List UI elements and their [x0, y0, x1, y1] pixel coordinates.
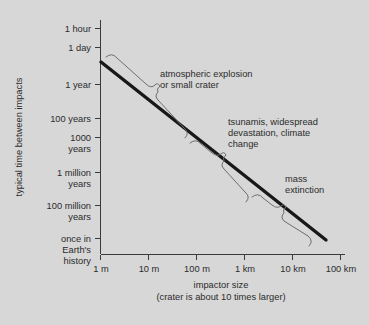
y-tick-label-history: history — [64, 256, 92, 266]
impact-frequency-chart: 1 hour 1 day 1 year 100 years 1000 years… — [0, 0, 369, 325]
x-axis — [101, 255, 346, 261]
x-tick-label-100-m: 100 m — [184, 264, 210, 274]
y-tick-label-100-million-years-unit: years — [68, 212, 91, 222]
annotation-mass-extinction-line1: mass — [285, 174, 308, 184]
annotation-mass-extinction-line2: extinction — [285, 185, 324, 195]
y-tick-labels: 1 hour 1 day 1 year 100 years 1000 years… — [47, 24, 92, 266]
y-tick-label-1-million: 1 million — [57, 168, 91, 178]
x-tick-label-100-km: 100 km — [326, 264, 357, 274]
x-tick-labels: 1 m 10 m 100 m 1 km 10 km 100 km — [93, 264, 356, 274]
annotation-atmospheric-line2: or small crater — [160, 80, 219, 90]
annotation-tsunamis-line1: tsunamis, widespread — [228, 117, 318, 127]
annotation-tsunamis-line3: change — [228, 139, 259, 149]
y-tick-label-1000: 1000 — [70, 133, 91, 143]
annotation-atmospheric: atmospheric explosion or small crater — [160, 69, 253, 90]
y-tick-label-1000-years-unit: years — [68, 144, 91, 154]
annotation-mass-extinction: mass extinction — [285, 174, 324, 195]
y-axis-title: typical time between impacts — [14, 77, 24, 196]
annotation-tsunamis-line2: devastation, climate — [228, 128, 310, 138]
y-tick-label-1-million-years-unit: years — [68, 179, 91, 189]
x-tick-label-10-m: 10 m — [139, 264, 160, 274]
x-axis-subtitle: (crater is about 10 times larger) — [156, 292, 285, 302]
y-tick-label-1-year: 1 year — [65, 80, 91, 90]
y-tick-label-once-in: once in — [61, 234, 91, 244]
y-tick-label-earths: Earth's — [62, 245, 91, 255]
y-tick-label-1-hour: 1 hour — [65, 24, 91, 34]
x-tick-label-10-km: 10 km — [280, 264, 306, 274]
x-tick-label-1-m: 1 m — [93, 264, 109, 274]
y-axis — [95, 20, 101, 254]
x-tick-label-1-km: 1 km — [235, 264, 255, 274]
annotation-tsunamis: tsunamis, widespread devastation, climat… — [228, 117, 318, 149]
y-tick-label-100-million: 100 million — [47, 201, 91, 211]
x-axis-title: impactor size — [194, 280, 249, 290]
y-tick-label-1-day: 1 day — [68, 43, 91, 53]
y-tick-label-100-years: 100 years — [50, 114, 91, 124]
annotation-atmospheric-line1: atmospheric explosion — [160, 69, 253, 79]
chart-canvas: 1 hour 1 day 1 year 100 years 1000 years… — [0, 0, 369, 325]
